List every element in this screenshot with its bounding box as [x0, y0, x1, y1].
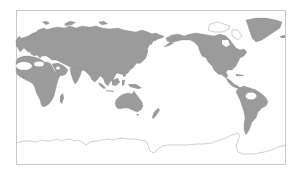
sulawesi	[122, 80, 125, 86]
java	[106, 90, 114, 92]
world-map	[0, 0, 301, 173]
amazon-unshaded	[246, 93, 257, 100]
central-america	[226, 78, 240, 88]
madagascar	[60, 93, 64, 104]
sahara-east-unshaded	[34, 62, 44, 67]
cuba	[236, 74, 244, 76]
new-guinea	[128, 84, 142, 89]
australia	[115, 91, 143, 112]
sumatra	[98, 82, 106, 89]
severnaya-zemlya	[98, 21, 108, 25]
new-zealand	[152, 108, 160, 119]
svalbard	[42, 21, 50, 25]
baffin-island	[232, 30, 242, 40]
tasmania	[136, 114, 139, 116]
arctic-archipelago	[208, 22, 230, 32]
alaska-peninsula	[164, 42, 174, 47]
novaya-zemlya	[64, 21, 76, 26]
india	[70, 68, 82, 84]
arabia-unshaded	[56, 67, 60, 70]
north-america-landmass	[166, 33, 247, 78]
greenland	[246, 18, 282, 42]
iceland	[280, 35, 285, 38]
sahara-unshaded	[16, 62, 32, 70]
antarctica-outline	[16, 133, 286, 154]
